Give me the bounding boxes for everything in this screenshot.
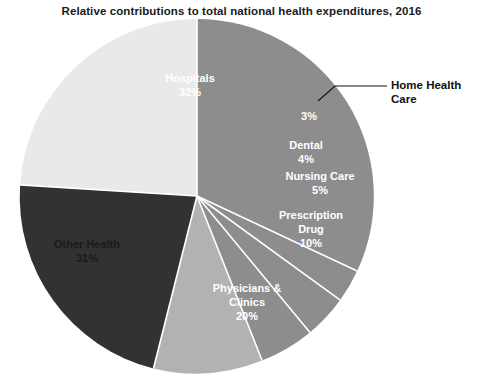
prescription-drug-label-line1: Prescription xyxy=(279,209,343,221)
prescription-drug-label-line2: Drug xyxy=(298,223,324,235)
physicians-clinics-label-line1: Physicians & xyxy=(213,282,282,294)
pie-chart: Hospitals 32% Home Health Care 3% Dental… xyxy=(0,0,483,383)
nursing-care-label: Nursing Care xyxy=(285,170,354,182)
nursing-care-value: 5% xyxy=(312,184,328,196)
other-health-label: Other Health xyxy=(54,238,120,250)
other-health-value: 31% xyxy=(76,252,98,264)
prescription-drug-value: 10% xyxy=(300,237,322,249)
home-health-care-value: 3% xyxy=(301,110,317,122)
physicians-clinics-value: 20% xyxy=(236,310,258,322)
physicians-clinics-label-line2: Clinics xyxy=(229,296,265,308)
pie-chart-canvas: Hospitals 32% Home Health Care 3% Dental… xyxy=(0,0,483,383)
home-health-care-label-line2: Care xyxy=(391,93,417,105)
pie-label-home-health-care: Home Health Care xyxy=(391,79,461,105)
pie-slice-other-health[interactable] xyxy=(20,19,197,196)
hospitals-value: 32% xyxy=(179,86,201,98)
hospitals-label: Hospitals xyxy=(165,72,215,84)
dental-label: Dental xyxy=(289,139,323,151)
dental-value: 4% xyxy=(298,153,314,165)
home-health-care-label-line1: Home Health xyxy=(391,79,461,91)
